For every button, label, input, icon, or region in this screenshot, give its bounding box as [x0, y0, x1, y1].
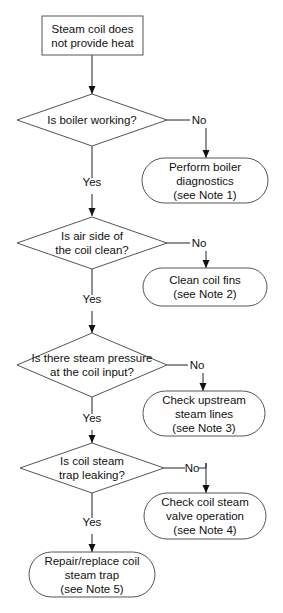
- edge-label-no: No: [192, 237, 207, 249]
- node-text: Check coil steam: [161, 496, 249, 508]
- edge-label-yes: Yes: [83, 176, 102, 188]
- arrowhead-icon: [200, 383, 207, 391]
- node-text: Is coil steam: [60, 455, 124, 467]
- node-text: (see Note 4): [173, 524, 236, 536]
- edge-q2-to-a2: No: [167, 237, 210, 268]
- node-text: Is boiler working?: [47, 114, 136, 126]
- node-text: Repair/replace coil: [44, 555, 139, 567]
- arrowhead-icon: [89, 435, 96, 443]
- node-text: Check upstream: [162, 394, 246, 406]
- arrowhead-icon: [89, 208, 96, 216]
- nodes: Steam coil doesnot provide heatIs boiler…: [17, 16, 268, 597]
- flowchart-canvas: NoYesNoYesNoYesNoYes Steam coil doesnot …: [0, 0, 283, 613]
- connector-hook: [199, 463, 206, 468]
- node-text: (see Note 1): [173, 189, 236, 201]
- node-text: steam trap: [65, 569, 119, 581]
- edge-label-yes: Yes: [83, 516, 102, 528]
- edge-q1-to-a1: No: [167, 114, 210, 158]
- edge-q4-to-a5: Yes: [83, 493, 102, 552]
- node-text: Is there steam pressure: [32, 352, 153, 364]
- arrowhead-icon: [203, 485, 210, 493]
- edge-label-no: No: [192, 114, 207, 126]
- decision-diamond: [20, 443, 164, 493]
- node-a4: Check coil steamvalve operation(see Note…: [144, 493, 266, 539]
- node-q1: Is boiler working?: [17, 94, 167, 146]
- node-text: (see Note 3): [172, 422, 235, 434]
- node-a3: Check upstreamsteam lines(see Note 3): [143, 391, 265, 436]
- node-text: Is air side of: [61, 230, 124, 242]
- arrowhead-icon: [203, 260, 210, 268]
- edge-q1-to-q2: Yes: [83, 146, 102, 216]
- node-text: Steam coil does: [52, 23, 134, 35]
- edge-label-no: No: [190, 359, 205, 371]
- node-text: (see Note 2): [173, 288, 236, 300]
- arrowhead-icon: [203, 150, 210, 158]
- node-text: not provide heat: [51, 37, 134, 49]
- edge-q4-to-a4: No: [164, 462, 210, 493]
- node-a5: Repair/replace coilsteam trap(see Note 5…: [29, 552, 155, 597]
- node-text: Clean coil fins: [169, 274, 241, 286]
- edge-q3-to-a3: No: [167, 359, 207, 391]
- node-text: at the coil input?: [50, 366, 134, 378]
- node-start: Steam coil doesnot provide heat: [42, 16, 143, 55]
- arrowhead-icon: [89, 325, 96, 333]
- edge-q3-to-q4: Yes: [83, 397, 102, 443]
- arrowhead-icon: [89, 544, 96, 552]
- node-a1: Perform boilerdiagnostics(see Note 1): [142, 158, 268, 203]
- decision-diamond: [17, 333, 167, 397]
- edge-start-to-q1: [89, 55, 96, 94]
- node-text: (see Note 5): [60, 583, 123, 595]
- node-q4: Is coil steamtrap leaking?: [20, 443, 164, 493]
- edge-label-yes: Yes: [83, 293, 102, 305]
- node-text: valve operation: [166, 510, 244, 522]
- flowchart: NoYesNoYesNoYesNoYes Steam coil doesnot …: [0, 0, 283, 613]
- node-q3: Is there steam pressureat the coil input…: [17, 333, 167, 397]
- arrowhead-icon: [89, 86, 96, 94]
- edge-label-yes: Yes: [83, 412, 102, 424]
- edge-label-no: No: [185, 462, 200, 474]
- node-text: steam lines: [175, 408, 233, 420]
- edge-q2-to-q3: Yes: [83, 269, 102, 333]
- node-text: trap leaking?: [59, 469, 125, 481]
- node-q2: Is air side ofthe coil clean?: [17, 217, 167, 269]
- node-text: the coil clean?: [55, 244, 129, 256]
- node-a2: Clean coil fins(see Note 2): [143, 268, 267, 306]
- node-text: diagnostics: [176, 175, 234, 187]
- node-text: Perform boiler: [169, 161, 241, 173]
- decision-diamond: [17, 217, 167, 269]
